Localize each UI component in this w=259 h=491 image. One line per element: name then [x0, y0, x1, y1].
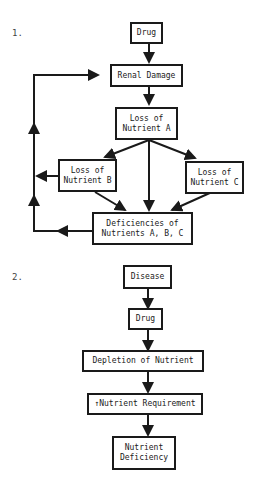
node-nutrient-deficiency: Nutrient Deficiency: [112, 436, 176, 470]
node-loss-of-nutrient-a: Loss of Nutrient A: [115, 107, 178, 140]
node-renal-damage: Renal Damage: [110, 64, 183, 87]
node-increased-nutrient-requirement: ↑Nutrient Requirement: [87, 393, 203, 415]
node-deficiencies: Deficiencies of Nutrients A, B, C: [92, 212, 193, 245]
node-drug-2: Drug: [128, 308, 163, 330]
node-disease: Disease: [123, 265, 172, 289]
node-depletion-of-nutrient: Depletion of Nutrient: [82, 350, 204, 372]
diagram-number-1: 1.: [12, 28, 23, 38]
node-drug: Drug: [130, 22, 163, 44]
node-loss-of-nutrient-b: Loss of Nutrient B: [58, 159, 117, 192]
node-loss-of-nutrient-c: Loss of Nutrient C: [185, 161, 244, 194]
diagram-number-2: 2.: [12, 272, 23, 282]
